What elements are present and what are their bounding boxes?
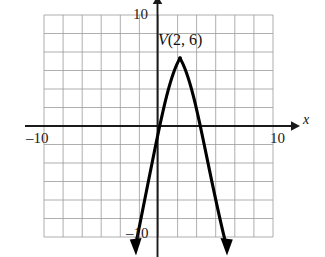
- x-axis-name-label: x: [303, 113, 309, 127]
- x-axis: [25, 121, 300, 131]
- parabola-right-arrowhead: [221, 238, 233, 256]
- x-axis-tick-label-10: 10: [270, 131, 285, 146]
- y-axis-tick-label-10: 10: [133, 7, 148, 22]
- x-axis-arrowhead: [291, 121, 300, 131]
- vertex-symbol: V: [158, 31, 168, 48]
- y-axis-tick-label-negative-10: –10: [126, 226, 149, 241]
- vertex-point: [178, 56, 182, 60]
- vertex-annotation-label: V(2, 6): [158, 32, 202, 48]
- x-axis-tick-label-negative-10: –10: [26, 131, 49, 146]
- vertex-coordinates: (2, 6): [168, 31, 203, 48]
- y-axis-arrowhead: [153, 0, 163, 4]
- graph-figure: 10 –10 10 –10 x V(2, 6): [0, 0, 325, 257]
